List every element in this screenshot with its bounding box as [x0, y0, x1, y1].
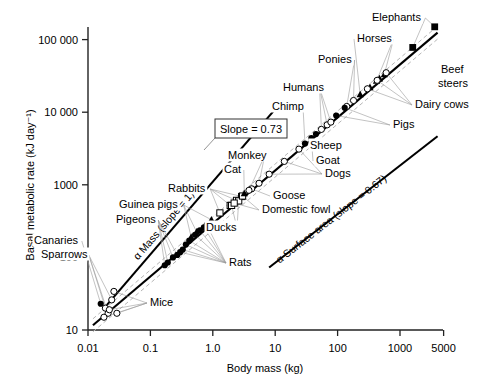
- label-domestic-fowl: Domestic fowl: [262, 203, 330, 215]
- x-tick-label: 0.1: [143, 342, 158, 354]
- y-tick-label: 10 000: [44, 106, 78, 118]
- data-point-open-circle: [114, 310, 120, 316]
- label-dairy-cows: Dairy cows: [415, 98, 469, 110]
- data-point-open-circle: [296, 146, 302, 152]
- data-point-open-circle: [106, 307, 112, 313]
- label-monkey: Monkey: [228, 149, 267, 161]
- label-sheep: Sheep: [310, 139, 342, 151]
- x-tick-label: 5000: [431, 342, 455, 354]
- data-point-open-circle: [328, 119, 334, 125]
- data-point-open-circle: [364, 86, 370, 92]
- data-point-open-circle: [350, 97, 356, 103]
- label-goose: Goose: [273, 189, 305, 201]
- label-chimp: Chimp: [272, 100, 304, 112]
- label-mice: Mice: [150, 296, 173, 308]
- data-point-open-circle: [374, 77, 380, 83]
- label-steers: steers: [438, 77, 468, 89]
- label-goat: Goat: [316, 154, 340, 166]
- label-pigeons: Pigeons: [116, 213, 156, 225]
- data-point-open-circle: [266, 171, 272, 177]
- data-point-filled-square: [409, 44, 416, 51]
- x-tick-label: 0.01: [77, 342, 98, 354]
- label-ducks: Ducks: [206, 221, 237, 233]
- data-point-filled-circle: [333, 112, 339, 118]
- label-ponies: Ponies: [318, 53, 352, 65]
- x-tick-label: 100: [328, 342, 346, 354]
- scatter-plot-canvas: 10100100010 000100 000 0.010.11.01010010…: [0, 0, 495, 383]
- data-point-filled-circle: [165, 259, 171, 265]
- label-cat: Cat: [224, 163, 241, 175]
- y-tick-label: 100 000: [38, 34, 78, 46]
- label-pigs: Pigs: [393, 118, 415, 130]
- x-axis-title: Body mass (kg): [227, 362, 303, 374]
- x-tick-label: 1000: [388, 342, 412, 354]
- data-point-open-square: [231, 200, 237, 206]
- data-point-filled-square: [431, 23, 438, 30]
- figure-root: 10100100010 000100 000 0.010.11.01010010…: [0, 0, 495, 383]
- y-tick-label: 10: [66, 324, 78, 336]
- label-elephants: Elephants: [372, 11, 421, 23]
- data-point-open-square: [217, 210, 223, 216]
- label-canaries: Canaries: [34, 234, 79, 246]
- x-tick-label: 1.0: [205, 342, 220, 354]
- label-rats: Rats: [229, 256, 252, 268]
- data-point-filled-circle: [342, 105, 348, 111]
- label-sparrows: Sparrows: [41, 248, 88, 260]
- data-point-open-circle: [109, 297, 115, 303]
- data-point-open-circle: [246, 187, 252, 193]
- label-horses: Horses: [357, 32, 392, 44]
- data-point-open-circle: [111, 288, 117, 294]
- label-beef: Beef: [441, 63, 465, 75]
- slope-callout-label: Slope = 0.73: [220, 123, 282, 135]
- data-point-open-circle: [383, 70, 389, 76]
- label-dogs: Dogs: [325, 167, 351, 179]
- label-guinea-pigs: Guinea pigs: [119, 198, 178, 210]
- label-humans: Humans: [283, 81, 324, 93]
- data-point-open-circle: [256, 180, 262, 186]
- label-rabbits: Rabbits: [168, 182, 206, 194]
- data-point-open-circle: [101, 314, 107, 320]
- data-point-open-circle: [318, 126, 324, 132]
- x-tick-label: 10: [269, 342, 281, 354]
- data-point-filled-circle: [302, 140, 308, 146]
- y-tick-label: 1000: [54, 179, 78, 191]
- data-point-open-circle: [281, 158, 287, 164]
